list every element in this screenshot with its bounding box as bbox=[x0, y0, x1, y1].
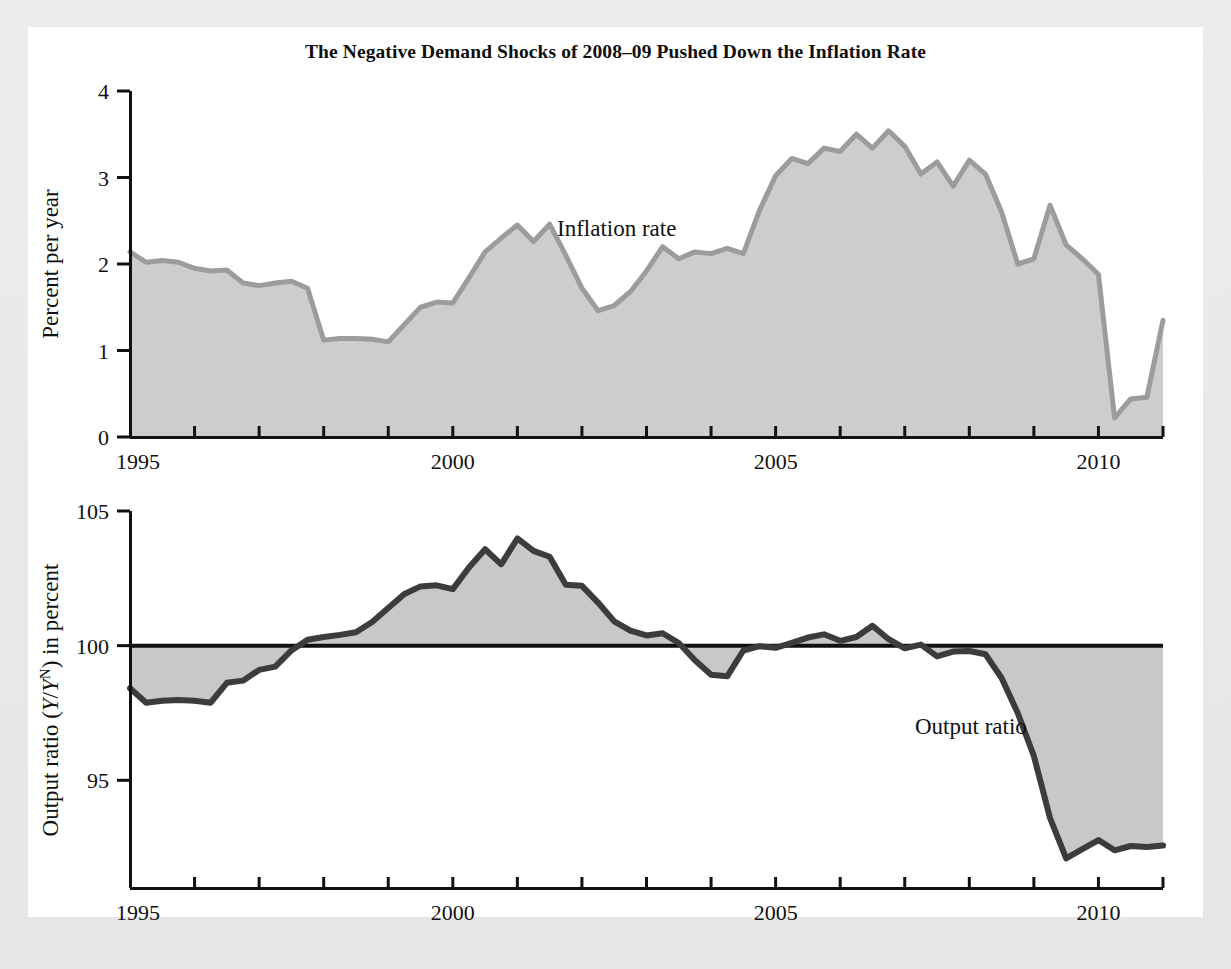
page-background: The Negative Demand Shocks of 2008–09 Pu… bbox=[0, 0, 1231, 969]
figure-card: The Negative Demand Shocks of 2008–09 Pu… bbox=[28, 27, 1203, 917]
page-title: The Negative Demand Shocks of 2008–09 Pu… bbox=[28, 41, 1203, 63]
